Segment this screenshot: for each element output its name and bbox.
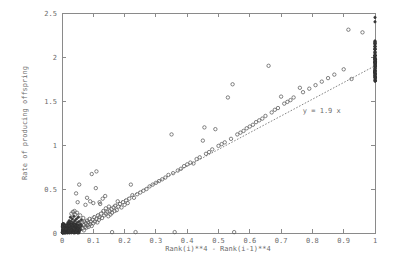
x-tick-label: 0.1 [87,237,100,245]
y-tick-label: 1 [53,142,57,150]
data-point [292,96,295,99]
data-point [308,87,311,90]
data-point [94,186,97,189]
data-point [61,225,63,227]
x-tick-label: 0.7 [275,237,288,245]
data-point [78,183,81,186]
y-axis-ticks [62,13,375,233]
data-point [361,31,364,34]
data-point [223,141,226,144]
data-point [201,139,204,142]
data-point [75,231,77,233]
data-point [90,172,93,175]
data-point [73,227,75,229]
data-point [374,71,376,73]
data-point [374,65,376,67]
data-point [207,150,210,153]
y-tick-label: 1.5 [44,98,57,106]
x-tick-label: 0.9 [337,237,350,245]
data-point [68,225,70,227]
data-point [374,67,376,69]
data-point [374,42,376,44]
data-point [95,170,98,173]
data-point [374,21,377,24]
data-point [203,126,206,129]
data-point [73,223,75,225]
plot-canvas: 00.10.20.30.40.50.60.70.80.91 00.511.522… [0,0,398,269]
data-point [301,91,304,94]
data-point [298,86,301,89]
data-point [85,196,88,199]
data-points [61,16,376,234]
x-axis-title: Rank(i)**4 - Rank(i-1)**4 [165,245,270,253]
data-point [71,218,74,221]
data-point [92,201,95,204]
x-tick-label: 0.5 [212,237,225,245]
data-point [214,127,217,130]
data-point [226,96,229,99]
y-tick-label: 0.5 [44,186,57,194]
data-point [320,80,323,83]
data-point [61,231,63,233]
data-point [167,173,170,176]
data-point [78,220,81,223]
x-axis-tick-labels: 00.10.20.30.40.50.60.70.80.91 [60,237,377,245]
data-point [82,216,85,219]
data-point [267,64,270,67]
data-point [279,95,282,98]
data-point [374,77,376,79]
data-point [129,183,132,186]
data-point [69,231,71,233]
x-axis-ticks [62,13,375,233]
data-point [76,201,79,204]
data-point [374,48,376,50]
x-tick-label: 1 [373,237,377,245]
data-point [264,114,267,117]
y-tick-label: 0 [53,230,57,238]
data-point [78,214,81,217]
y-axis-title: Rate of producing offspring [21,66,29,180]
data-point [79,229,81,231]
data-point [270,111,273,114]
data-point [347,28,350,31]
data-point [78,226,80,228]
data-point [374,46,376,48]
data-point [242,129,245,132]
x-tick-label: 0.2 [118,237,131,245]
data-point [103,194,106,197]
data-point [62,223,64,225]
fit-equation-annotation: y = 1.9 x [303,107,341,115]
data-point [374,58,376,60]
data-point [65,228,67,230]
data-point [231,83,234,86]
data-point [314,83,317,86]
x-tick-label: 0.6 [243,237,256,245]
annotation-text: y = 1.9 x [303,107,341,115]
data-point [170,133,173,136]
data-point [276,106,279,109]
y-tick-label: 2 [53,54,57,62]
x-tick-label: 0 [60,237,64,245]
data-point [326,76,329,79]
data-point [342,68,345,71]
data-point [164,176,167,179]
data-point [84,203,87,206]
x-tick-label: 0.4 [181,237,194,245]
data-point [229,137,232,140]
data-point [374,62,376,64]
data-point [289,98,292,101]
data-point [251,123,254,126]
plot-frame [62,13,375,233]
data-point [333,73,336,76]
x-tick-label: 0.8 [306,237,319,245]
data-point [128,197,131,200]
data-point [261,117,264,120]
y-tick-label: 2.5 [44,10,57,18]
data-point [198,156,201,159]
data-point [132,196,135,199]
data-point [74,192,77,195]
data-point [120,206,123,209]
data-point [126,201,129,204]
x-tick-label: 0.3 [150,237,163,245]
y-axis-tick-labels: 00.511.522.5 [44,10,57,238]
